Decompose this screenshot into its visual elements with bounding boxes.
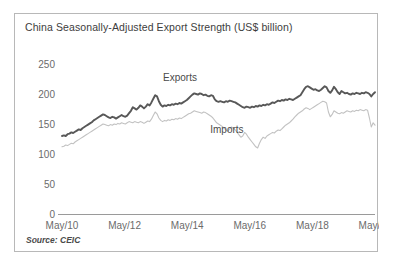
source-note: Source: CEIC	[26, 235, 80, 245]
y-tick-100: 100	[38, 149, 55, 160]
chart-frame: China Seasonally-Adjusted Export Strengt…	[14, 13, 378, 252]
y-tick-0: 0	[49, 209, 55, 220]
y-tick-200: 200	[38, 89, 55, 100]
x-tick-May-20: May/20	[359, 220, 379, 231]
annotation-exports: Exports	[163, 72, 197, 83]
y-tick-250: 250	[38, 59, 55, 70]
x-tick-May-16: May/16	[233, 220, 266, 231]
x-tick-May-14: May/14	[171, 220, 204, 231]
x-tick-May-18: May/18	[296, 220, 329, 231]
y-tick-150: 150	[38, 119, 55, 130]
y-tick-50: 50	[44, 179, 56, 190]
annotation-imports: Imports	[210, 124, 243, 135]
y-axis-tick-labels: 050100150200250	[38, 59, 55, 220]
x-axis-tick-labels: May/10May/12May/14May/16May/18May/20	[46, 220, 379, 231]
x-tick-May-10: May/10	[46, 220, 79, 231]
x-tick-May-12: May/12	[108, 220, 141, 231]
chart-plot-area: 050100150200250 May/10May/12May/14May/16…	[15, 14, 379, 253]
figure-container: China Seasonally-Adjusted Export Strengt…	[0, 0, 395, 264]
data-series-group	[62, 86, 375, 148]
